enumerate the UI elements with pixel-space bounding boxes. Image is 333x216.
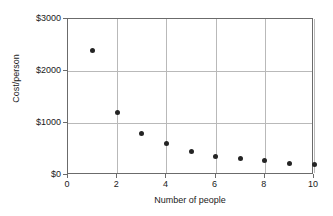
- data-point: [262, 158, 267, 163]
- y-axis-label: Cost/person: [11, 39, 22, 119]
- gridline-vertical: [117, 19, 118, 173]
- gridline-vertical: [216, 19, 217, 173]
- x-axis-tick: [215, 174, 216, 178]
- x-axis-tick-label: 4: [145, 179, 185, 190]
- data-point: [164, 141, 169, 146]
- gridline-vertical: [166, 19, 167, 173]
- plot-area: [67, 18, 313, 174]
- x-axis-tick-label: 8: [244, 179, 284, 190]
- data-point: [287, 161, 292, 166]
- x-axis-tick-label: 10: [293, 179, 333, 190]
- x-axis-tick: [313, 174, 314, 178]
- x-axis-tick-label: 6: [195, 179, 235, 190]
- data-point: [139, 131, 144, 136]
- x-axis-tick: [116, 174, 117, 178]
- gridline-vertical: [314, 19, 315, 173]
- y-axis-tick: [63, 70, 67, 71]
- data-point: [115, 110, 120, 115]
- cost-per-person-scatter-chart: Cost/person Number of people 0246810$0$1…: [0, 0, 333, 216]
- x-axis-tick-label: 2: [96, 179, 136, 190]
- x-axis-tick: [165, 174, 166, 178]
- y-axis-tick: [63, 18, 67, 19]
- data-point: [312, 162, 317, 167]
- x-axis-label: Number of people: [67, 195, 313, 206]
- y-axis-tick: [63, 122, 67, 123]
- data-point: [90, 48, 95, 53]
- y-axis-tick-label: $2000: [1, 65, 61, 76]
- data-point: [238, 156, 243, 161]
- data-point: [213, 154, 218, 159]
- y-axis-tick: [63, 174, 67, 175]
- gridline-vertical: [265, 19, 266, 173]
- y-axis-tick-label: $3000: [1, 13, 61, 24]
- data-point: [189, 149, 194, 154]
- y-axis-tick-label: $1000: [1, 117, 61, 128]
- gridline-horizontal: [68, 71, 312, 72]
- x-axis-tick: [67, 174, 68, 178]
- gridline-horizontal: [68, 123, 312, 124]
- x-axis-tick: [264, 174, 265, 178]
- x-axis-tick-label: 0: [47, 179, 87, 190]
- y-axis-tick-label: $0: [1, 169, 61, 180]
